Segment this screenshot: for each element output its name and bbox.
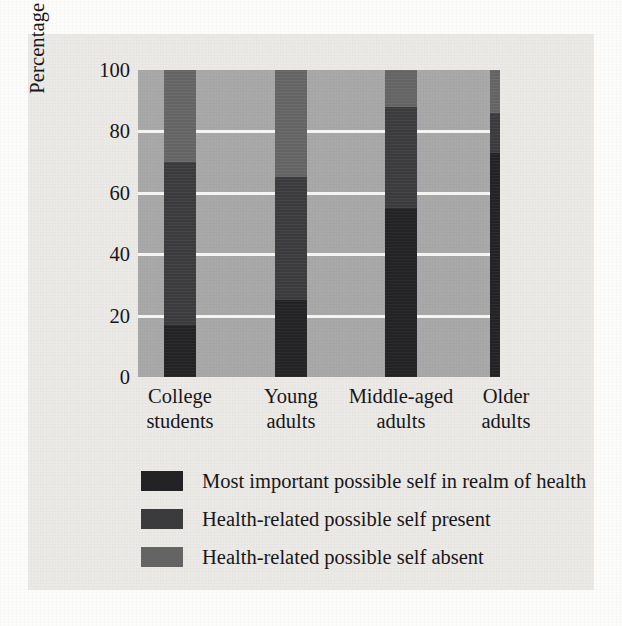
figure-caption xyxy=(104,612,574,626)
y-tick-label: 100 xyxy=(84,60,130,81)
bar-segment[interactable] xyxy=(385,107,417,208)
x-tick-label-line: adults xyxy=(431,409,581,434)
y-tick-label: 80 xyxy=(84,121,130,142)
bar-segment[interactable] xyxy=(275,300,307,377)
y-axis-tick-labels: 020406080100 xyxy=(74,0,130,626)
chart-legend: Most important possible self in realm of… xyxy=(141,464,561,578)
bar-segment[interactable] xyxy=(275,177,307,300)
bar-segment[interactable] xyxy=(490,153,500,377)
bar-young-adults[interactable] xyxy=(275,70,307,377)
bar-segment[interactable] xyxy=(385,208,417,377)
page-background: Percentage of sample 020406080100 Colleg… xyxy=(0,0,622,626)
bar-older-adults[interactable] xyxy=(490,70,500,377)
bar-segment[interactable] xyxy=(275,70,307,177)
y-axis-title: Percentage of sample xyxy=(26,0,56,130)
legend-item[interactable]: Most important possible self in realm of… xyxy=(141,464,561,498)
bar-segment[interactable] xyxy=(164,70,196,162)
legend-item[interactable]: Health-related possible self present xyxy=(141,502,561,536)
legend-label: Health-related possible self present xyxy=(202,509,491,530)
x-tick-label-line: Older xyxy=(431,384,581,409)
legend-label: Most important possible self in realm of… xyxy=(202,471,586,492)
bar-segment[interactable] xyxy=(490,113,500,153)
legend-swatch xyxy=(141,471,183,491)
bar-segment[interactable] xyxy=(164,325,196,377)
bar-segment[interactable] xyxy=(385,70,417,107)
legend-swatch xyxy=(141,509,183,529)
legend-item[interactable]: Health-related possible self absent xyxy=(141,540,561,574)
bar-segment[interactable] xyxy=(164,162,196,325)
y-tick-label: 20 xyxy=(84,306,130,327)
legend-swatch xyxy=(141,547,183,567)
legend-label: Health-related possible self absent xyxy=(202,547,484,568)
bar-middle-aged-adults[interactable] xyxy=(385,70,417,377)
y-tick-label: 60 xyxy=(84,183,130,204)
bar-college-students[interactable] xyxy=(164,70,196,377)
x-tick-label: Olderadults xyxy=(431,384,581,434)
plot-area xyxy=(138,70,500,377)
x-axis-tick-labels: CollegestudentsYoungadultsMiddle-agedadu… xyxy=(138,384,518,442)
bar-segment[interactable] xyxy=(490,70,500,113)
y-tick-label: 40 xyxy=(84,244,130,265)
